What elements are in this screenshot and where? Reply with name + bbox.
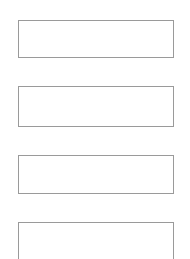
field-box-3-value	[19, 156, 173, 193]
field-box-2[interactable]	[18, 86, 174, 127]
field-box-4[interactable]	[18, 222, 174, 259]
field-box-3[interactable]	[18, 155, 174, 194]
field-box-1-value	[19, 21, 173, 57]
field-box-1[interactable]	[18, 20, 174, 58]
page-canvas	[0, 0, 190, 259]
field-box-2-value	[19, 87, 173, 126]
field-box-4-value	[19, 223, 173, 259]
